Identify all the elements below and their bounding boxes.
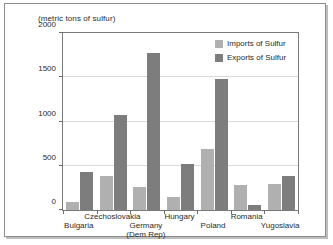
legend-item-label: Imports of Sulfur [227, 39, 286, 48]
legend-swatch-icon [215, 40, 223, 48]
x-axis-label-poland: Poland [201, 221, 226, 230]
bar-group [66, 33, 93, 210]
legend-swatch-icon [215, 54, 223, 62]
bar-imports[interactable] [167, 197, 180, 210]
bar-imports[interactable] [66, 202, 79, 210]
bar-exports[interactable] [248, 205, 261, 210]
bar-exports[interactable] [282, 176, 295, 211]
y-axis-tick-label: 0 [52, 197, 56, 206]
x-axis-tick-mark [264, 210, 265, 214]
x-axis-tick-mark [63, 210, 64, 214]
bar-group [133, 33, 160, 210]
bar-imports[interactable] [268, 184, 281, 210]
bar-exports[interactable] [215, 79, 228, 210]
y-axis-tick-mark [59, 32, 63, 33]
x-axis-label-line1: Poland [201, 221, 226, 230]
legend-item[interactable]: Exports of Sulfur [215, 52, 286, 63]
bar-group [167, 33, 194, 210]
y-axis-tick-mark [59, 76, 63, 77]
bar-exports[interactable] [147, 53, 160, 210]
y-axis-tick-label: 2000 [38, 20, 56, 29]
x-axis-tick-mark [197, 210, 198, 214]
x-axis-label-hungary: Hungary [164, 212, 194, 221]
x-axis-label-line1: Germany [129, 221, 162, 230]
y-axis-tick-label: 500 [43, 152, 56, 161]
y-axis-tick-label: 1500 [38, 64, 56, 73]
figure-frame: (metric tons of sulfur) 0500100015002000… [4, 3, 326, 237]
legend-item-label: Exports of Sulfur [227, 53, 286, 62]
x-axis-label-yugoslavia: Yugoslavia [261, 221, 300, 230]
bar-exports[interactable] [80, 172, 93, 210]
x-axis-label-bulgaria: Bulgaria [64, 221, 93, 230]
bar-exports[interactable] [114, 115, 127, 210]
x-axis-label-romania: Romania [231, 212, 263, 221]
x-axis-label-line1: Yugoslavia [261, 221, 300, 230]
y-axis-tick-mark [59, 165, 63, 166]
bar-imports[interactable] [133, 187, 146, 210]
y-axis-tick-mark [59, 121, 63, 122]
bar-exports[interactable] [181, 164, 194, 210]
x-axis-label-germany: Germany(Dem Rep) [126, 221, 165, 239]
x-axis-tick-mark [298, 210, 299, 214]
x-axis-label-line2: (Dem Rep) [126, 230, 165, 239]
bar-group [100, 33, 127, 210]
x-axis-label-line1: Bulgaria [64, 221, 93, 230]
legend-item[interactable]: Imports of Sulfur [215, 38, 286, 49]
x-axis-label-line1: Czechoslovakia [84, 212, 140, 221]
bar-imports[interactable] [201, 149, 214, 211]
x-axis-label-line1: Hungary [164, 212, 194, 221]
chart-legend: Imports of SulfurExports of Sulfur [215, 38, 286, 66]
bar-imports[interactable] [100, 176, 113, 211]
bar-imports[interactable] [234, 185, 247, 210]
x-axis-label-line1: Romania [231, 212, 263, 221]
x-axis-label-czechoslovakia: Czechoslovakia [84, 212, 140, 221]
y-axis-tick-label: 1000 [38, 108, 56, 117]
